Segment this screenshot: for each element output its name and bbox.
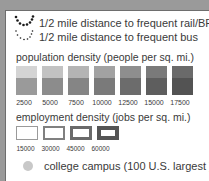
emp-swatch-15000 xyxy=(16,126,38,140)
pop-label: 15000 xyxy=(141,99,167,106)
pop-label: 10000 xyxy=(89,99,115,106)
pop-swatch-12500 xyxy=(120,66,141,95)
dotted-arc-rail-icon xyxy=(14,15,36,29)
emp-label: 45000 xyxy=(63,145,88,152)
emp-swatch-30000 xyxy=(43,126,65,140)
population-swatches xyxy=(16,66,193,95)
employment-density-title: employment density (jobs per sq. mi.) xyxy=(16,111,190,123)
pop-label: 17500 xyxy=(167,99,193,106)
pop-swatch-2500 xyxy=(16,66,37,95)
college-campus-legend: college campus (100 U.S. largest ) xyxy=(23,160,209,172)
pop-swatch-5000 xyxy=(42,66,63,95)
rail-brt-label: 1/2 mile distance to frequent rail/BRT xyxy=(39,17,209,29)
pop-swatch-7500 xyxy=(68,66,89,95)
college-campus-label: college campus (100 U.S. largest ) xyxy=(44,160,209,172)
pop-swatch-10000 xyxy=(94,66,115,95)
college-campus-dot-icon xyxy=(23,161,33,171)
employment-labels: 15000 30000 45000 60000 xyxy=(13,145,113,152)
emp-label: 15000 xyxy=(13,145,38,152)
population-labels: 2500 5000 7500 10000 12500 15000 17500 xyxy=(11,99,193,106)
map-legend: 1/2 mile distance to frequent rail/BRT 1… xyxy=(5,10,209,181)
dotted-arc-bus-icon xyxy=(14,29,36,43)
population-density-title: population density (people per sq. mi.) xyxy=(16,51,194,63)
pop-label: 7500 xyxy=(63,99,89,106)
emp-label: 60000 xyxy=(88,145,113,152)
frequent-bus-label: 1/2 mile distance to frequent bus xyxy=(39,31,198,43)
pop-swatch-17500 xyxy=(172,66,193,95)
employment-swatches xyxy=(16,126,119,140)
pop-label: 12500 xyxy=(115,99,141,106)
emp-swatch-60000 xyxy=(97,126,119,140)
pop-label: 5000 xyxy=(37,99,63,106)
emp-swatch-45000 xyxy=(70,126,92,140)
pop-swatch-15000 xyxy=(146,66,167,95)
pop-label: 2500 xyxy=(11,99,37,106)
emp-label: 30000 xyxy=(38,145,63,152)
